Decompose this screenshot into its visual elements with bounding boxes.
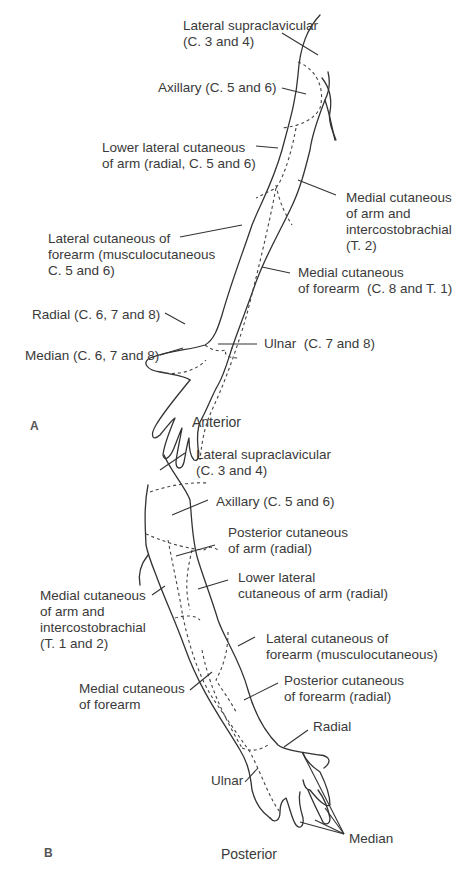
label-b-lower-lateral-cutaneous-arm: Lower lateral cutaneous of arm (radial) [238, 570, 388, 602]
label-b-posterior-cutaneous-forearm: Posterior cutaneous of forearm (radial) [284, 673, 404, 705]
label-a-lower-lateral-cutaneous-arm: Lower lateral cutaneous of arm (radial, … [102, 140, 256, 172]
label-b-median: Median [349, 831, 393, 847]
label-b-posterior-cutaneous-arm: Posterior cutaneous of arm (radial) [228, 525, 348, 557]
label-a-radial: Radial (C. 6, 7 and 8) [32, 307, 160, 323]
label-a-lateral-cutaneous-forearm: Lateral cutaneous of forearm (musculocut… [48, 231, 215, 279]
label-b-ulnar: Ulnar [211, 773, 243, 789]
label-b-lateral-supraclavicular: Lateral supraclavicular (C. 3 and 4) [196, 447, 331, 479]
panel-label-a: A [30, 419, 39, 433]
panel-label-b: B [44, 846, 53, 860]
view-label-posterior: Posterior [221, 846, 277, 862]
label-b-lateral-cutaneous-forearm: Lateral cutaneous of forearm (musculocut… [266, 631, 438, 663]
label-b-axillary: Axillary (C. 5 and 6) [216, 494, 335, 510]
dermatome-drawing [0, 0, 464, 876]
label-a-lateral-supraclavicular: Lateral supraclavicular (C. 3 and 4) [183, 18, 318, 50]
label-a-medial-cutaneous-arm: Medial cutaneous of arm and intercostobr… [346, 190, 452, 254]
view-label-anterior: Anterior [192, 414, 241, 430]
label-b-medial-cutaneous-arm: Medial cutaneous of arm and intercostobr… [40, 588, 146, 652]
label-b-radial: Radial [313, 719, 351, 735]
label-b-medial-cutaneous-forearm: Medial cutaneous of forearm [79, 681, 185, 713]
label-a-ulnar: Ulnar (C. 7 and 8) [264, 336, 375, 352]
label-a-median: Median (C. 6, 7 and 8) [25, 348, 159, 364]
label-a-axillary: Axillary (C. 5 and 6) [158, 80, 277, 96]
label-a-medial-cutaneous-forearm: Medial cutaneous of forearm (C. 8 and T.… [298, 265, 452, 297]
